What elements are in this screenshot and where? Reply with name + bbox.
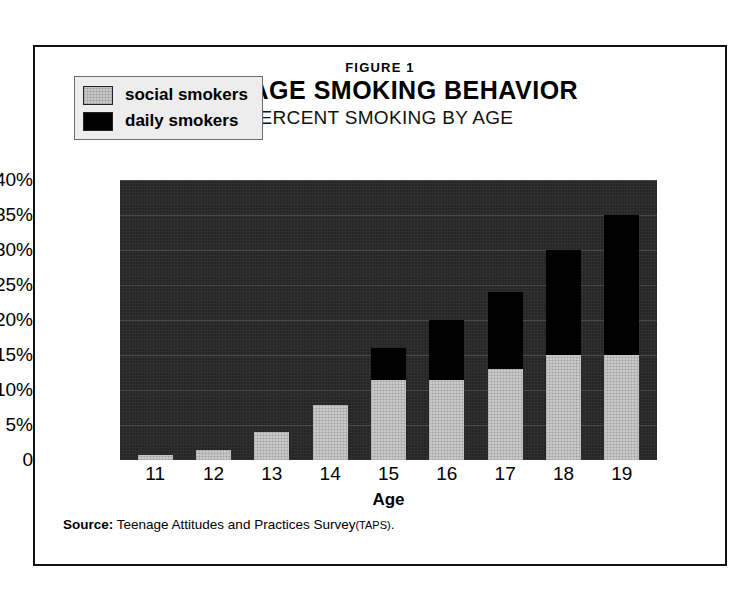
bar-series-group — [120, 180, 657, 460]
x-axis-tick-label: 15 — [359, 463, 417, 485]
legend-swatch-icon — [83, 112, 113, 131]
x-axis-tick-label: 13 — [243, 463, 301, 485]
bar-segment-social-smokers[interactable] — [488, 369, 523, 460]
bar-stack[interactable] — [429, 320, 464, 460]
source-text: Teenage Attitudes and Practices Survey — [117, 517, 356, 532]
bar-slot — [359, 180, 417, 460]
bar-slot — [126, 180, 184, 460]
bar-stack[interactable] — [196, 450, 231, 461]
source-suffix: . — [391, 517, 395, 532]
source-abbrev: (TAPS) — [355, 519, 390, 531]
bar-segment-social-smokers[interactable] — [196, 450, 231, 461]
bar-slot — [476, 180, 534, 460]
legend-item[interactable]: daily smokers — [83, 109, 248, 133]
x-axis-tick-label: 19 — [593, 463, 651, 485]
x-axis-tick-label: 16 — [418, 463, 476, 485]
x-axis-tick-label: 14 — [301, 463, 359, 485]
bar-segment-social-smokers[interactable] — [138, 455, 173, 460]
x-axis-tick-label: 11 — [126, 463, 184, 485]
bar-segment-social-smokers[interactable] — [429, 380, 464, 461]
y-axis-tick-label: 35% — [0, 204, 33, 226]
bar-stack[interactable] — [313, 405, 348, 460]
legend-label: social smokers — [125, 85, 248, 105]
bar-segment-social-smokers[interactable] — [254, 432, 289, 460]
y-axis-tick-label: 15% — [0, 344, 33, 366]
y-axis-tick-label: 25% — [0, 274, 33, 296]
y-axis-tick-label: 0 — [0, 449, 33, 471]
bar-segment-social-smokers[interactable] — [313, 405, 348, 460]
bar-stack[interactable] — [371, 348, 406, 460]
x-axis-ticks: 111213141516171819 — [120, 463, 657, 485]
bar-stack[interactable] — [604, 215, 639, 460]
y-axis-tick-label: 20% — [0, 309, 33, 331]
bar-segment-daily-smokers[interactable] — [546, 250, 581, 355]
bar-stack[interactable] — [546, 250, 581, 460]
x-axis-tick-label: 12 — [184, 463, 242, 485]
y-axis-tick-label: 5% — [0, 414, 33, 436]
bar-segment-daily-smokers[interactable] — [429, 320, 464, 380]
bar-segment-social-smokers[interactable] — [604, 355, 639, 460]
bar-slot — [534, 180, 592, 460]
chart-legend: social smokersdaily smokers — [74, 76, 263, 140]
figure-frame: FIGURE 1 TEENAGE SMOKING BEHAVIOR PERCEN… — [33, 45, 727, 566]
x-axis-tick-label: 17 — [476, 463, 534, 485]
bar-segment-social-smokers[interactable] — [371, 380, 406, 461]
source-prefix: Source: — [63, 517, 113, 532]
legend-swatch-icon — [83, 86, 113, 105]
y-axis-tick-label: 40% — [0, 169, 33, 191]
bar-slot — [301, 180, 359, 460]
source-note: Source: Teenage Attitudes and Practices … — [63, 517, 394, 532]
plot-area — [120, 180, 657, 460]
bar-segment-daily-smokers[interactable] — [488, 292, 523, 369]
figure-label: FIGURE 1 — [35, 60, 725, 75]
legend-label: daily smokers — [125, 111, 238, 131]
legend-item[interactable]: social smokers — [83, 83, 248, 107]
bar-slot — [418, 180, 476, 460]
bar-slot — [184, 180, 242, 460]
bar-segment-daily-smokers[interactable] — [371, 348, 406, 380]
bar-stack[interactable] — [138, 455, 173, 460]
bar-segment-daily-smokers[interactable] — [604, 215, 639, 355]
bar-stack[interactable] — [254, 432, 289, 460]
bar-slot — [593, 180, 651, 460]
x-axis-tick-label: 18 — [534, 463, 592, 485]
y-axis-tick-label: 30% — [0, 239, 33, 261]
bar-stack[interactable] — [488, 292, 523, 460]
x-axis-title: Age — [120, 490, 657, 510]
bar-slot — [243, 180, 301, 460]
chart-plot: 40%35%30%25%20%15%10%5%0 — [120, 180, 657, 460]
bar-segment-social-smokers[interactable] — [546, 355, 581, 460]
y-axis-tick-label: 10% — [0, 379, 33, 401]
